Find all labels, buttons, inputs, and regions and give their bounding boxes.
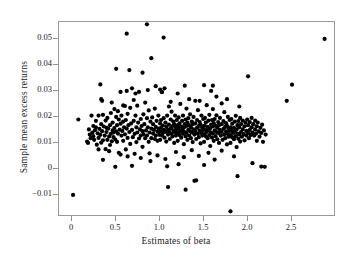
x-tick-mark (247, 216, 248, 221)
x-tick-label: 1.5 (198, 223, 209, 232)
x-tick-label: 1.0 (154, 223, 165, 232)
scatter-plot-figure: 0.050.040.030.020.010−0.01 00.51.01.52.0… (0, 0, 352, 265)
x-axis-title: Estimates of beta (0, 236, 352, 246)
x-tick-mark (291, 216, 292, 221)
x-tick-label: 2.0 (242, 223, 253, 232)
x-tick-label: 2.5 (286, 223, 297, 232)
y-tick-mark (53, 38, 58, 39)
y-tick-mark (53, 168, 58, 169)
x-tick-label: 0.5 (110, 223, 121, 232)
x-tick-mark (159, 216, 160, 221)
y-axis-title: Sample mean excess returns (19, 29, 29, 205)
y-tick-mark (53, 90, 58, 91)
y-tick-mark (53, 142, 58, 143)
y-tick-mark (53, 64, 58, 65)
x-tick-label: 0 (69, 223, 73, 232)
x-tick-mark (115, 216, 116, 221)
x-axis-tick-labels: 00.51.01.52.02.5 (0, 0, 352, 265)
x-tick-mark (203, 216, 204, 221)
y-tick-mark (53, 116, 58, 117)
x-tick-mark (71, 216, 72, 221)
y-tick-mark (53, 194, 58, 195)
